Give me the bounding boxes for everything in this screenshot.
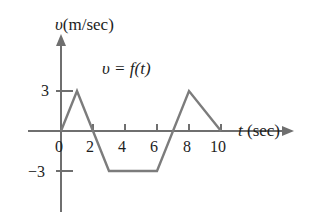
x-tick-label-2: 2	[86, 139, 94, 155]
y-axis-symbol: υ	[55, 15, 63, 34]
x-tick-label-10: 10	[210, 139, 226, 155]
velocity-time-figure: υ(m/sec) υ = f(t) t (sec) 3 −3 0 2 4 6 8…	[0, 0, 326, 224]
x-tick-label-0: 0	[55, 139, 63, 155]
graph-canvas	[0, 0, 326, 224]
y-tick-label-3: 3	[41, 83, 49, 99]
x-tick-label-8: 8	[183, 139, 191, 155]
x-axis-title: t (sec)	[238, 122, 280, 139]
function-label: υ = f(t)	[102, 60, 151, 77]
x-axis-units: (sec)	[247, 121, 280, 140]
x-tick-label-4: 4	[118, 139, 126, 155]
y-tick-label-neg3: −3	[28, 164, 45, 180]
y-axis-title: υ(m/sec)	[55, 16, 114, 33]
x-tick-label-6: 6	[150, 139, 158, 155]
x-axis-symbol: t	[238, 121, 243, 140]
x-axis-arrowhead	[282, 126, 294, 136]
y-axis-arrowhead	[56, 34, 66, 46]
y-axis-units: (m/sec)	[63, 15, 114, 34]
